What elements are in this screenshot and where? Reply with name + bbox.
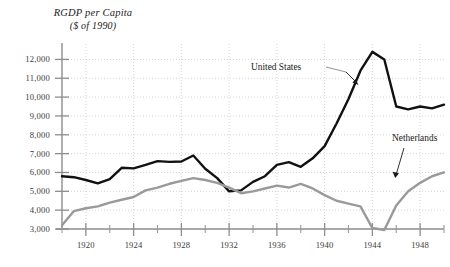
us-annotation-label: United States xyxy=(251,62,302,72)
y-tick-label: 6,000 xyxy=(30,167,50,177)
x-tick-label: 1936 xyxy=(268,240,286,250)
y-tick-label: 3,000 xyxy=(30,224,50,234)
y-tick-label: 9,000 xyxy=(30,111,50,121)
chart-figure: RGDP per Capita ($ of 1990) 3,0004,0005,… xyxy=(0,0,450,267)
y-tick-label: 10,000 xyxy=(25,92,50,102)
chart-canvas: 3,0004,0005,0006,0007,0008,0009,00010,00… xyxy=(0,0,450,267)
nl-arrow-shaft xyxy=(396,148,404,175)
x-tick-label: 1932 xyxy=(220,240,238,250)
x-tick-label: 1944 xyxy=(363,240,381,250)
y-tick-label: 8,000 xyxy=(30,130,50,140)
y-tick-label: 5,000 xyxy=(30,186,50,196)
nl-annotation-label: Netherlands xyxy=(392,133,438,143)
y-tick-label: 7,000 xyxy=(30,149,50,159)
series-line-united-states xyxy=(62,52,444,191)
x-tick-label: 1940 xyxy=(316,240,334,250)
x-tick-label: 1948 xyxy=(411,240,429,250)
x-tick-label: 1924 xyxy=(125,240,143,250)
annotation-layer: United States Netherlands xyxy=(251,62,438,178)
y-tick-label: 11,000 xyxy=(25,73,50,83)
y-tick-label: 4,000 xyxy=(30,205,50,215)
y-tick-label: 12,000 xyxy=(25,54,50,64)
x-tick-label: 1928 xyxy=(172,240,190,250)
axis-layer xyxy=(55,43,444,236)
series-layer xyxy=(62,52,444,230)
x-tick-label: 1920 xyxy=(77,240,95,250)
us-leader-line xyxy=(326,67,346,72)
